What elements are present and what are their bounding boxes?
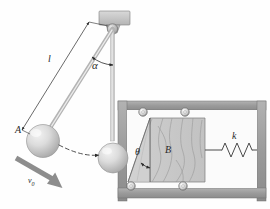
dimension-shaft (22, 22, 89, 130)
pendulum-rod-vertical (111, 31, 115, 141)
incline-angle-label: θ (135, 147, 140, 157)
sphere-a-at-rest (98, 143, 128, 173)
ceiling-bracket (99, 11, 130, 34)
initial-velocity-label: v0 (28, 177, 35, 187)
sphere-a-highlight (31, 129, 42, 137)
sphere-a-label: A (15, 125, 21, 135)
length-dimension-line (22, 22, 108, 134)
roller-top-left-hub (142, 111, 145, 114)
spring-constant-label: k (232, 131, 236, 141)
pendulum-rod-displaced (45, 29, 113, 137)
frame-bottom-slab (118, 188, 266, 198)
sphere-a-displaced (27, 125, 60, 158)
sphere-rest-highlight (102, 147, 112, 154)
block-b-label: B (165, 145, 171, 155)
rod-length-label: l (48, 54, 51, 64)
bracket-plate (99, 11, 130, 25)
sphere-a-body (27, 125, 60, 158)
swing-angle-label: α (92, 60, 98, 71)
v0-arrow-shaft (16, 158, 56, 181)
roller-top-right-hub (184, 111, 187, 114)
figure-canvas: l α θ A B k v0 (0, 0, 270, 209)
v0-arrow (16, 158, 66, 188)
sphere-rest-body (98, 143, 128, 173)
roller-bottom-left-hub (130, 185, 133, 188)
swing-path-dashed (59, 145, 99, 155)
dimension-tick-bottom (22, 130, 30, 134)
frame-right-post (257, 101, 266, 201)
rod-displaced-highlight (45, 30, 112, 137)
roller-bottom-right-hub (182, 185, 185, 188)
rod-rest-shaft (111, 31, 115, 141)
v0-subscript: 0 (32, 181, 35, 187)
mechanics-diagram (0, 0, 270, 209)
